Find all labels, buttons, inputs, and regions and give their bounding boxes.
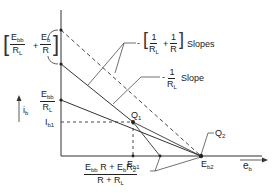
- slopes-fraction-2: 1 R: [170, 33, 177, 54]
- bottom-fraction: Ebb R + EbR2 R + RL: [84, 163, 137, 186]
- ib1-label: Ib1: [45, 118, 54, 128]
- y-axis-label: ib: [23, 106, 28, 116]
- point-top-intercept: [59, 28, 62, 31]
- load-line-rl: [61, 100, 201, 156]
- brace-connector: [48, 56, 58, 64]
- y-arrow-head-icon: [17, 95, 22, 101]
- q2-leader: [201, 133, 214, 155]
- q1-label: Q1: [131, 111, 141, 121]
- point-bottom: [159, 155, 162, 158]
- q1-to-eb2: [133, 122, 201, 156]
- slope-text: Slope: [181, 74, 204, 83]
- bottom-fraction-leader: [150, 157, 160, 171]
- point-ebb-rl: [59, 98, 62, 101]
- ebb-over-rl-fraction: Ebb RL: [10, 33, 25, 56]
- x-arrow-head-icon: [262, 158, 268, 163]
- solid-line-to-q1: [61, 64, 133, 122]
- slopes-bracket-left: [: [143, 30, 148, 48]
- plus-sign: +: [33, 42, 38, 51]
- q2-label: Q2: [215, 129, 225, 139]
- bracket-left: [: [3, 33, 9, 55]
- slope-leader: [113, 77, 160, 104]
- bracket-right: ]: [53, 33, 59, 55]
- point-eb1: [132, 155, 135, 158]
- point-mid-intercept: [59, 62, 62, 65]
- slopes-fraction-1: 1 RL: [149, 33, 159, 55]
- slopes-leader: [88, 43, 136, 85]
- slope-fraction: 1 RL: [167, 68, 177, 90]
- slopes-minus: -: [137, 39, 140, 48]
- bottom-fraction-leader-2: [155, 157, 201, 171]
- slopes-text: Slopes: [187, 40, 215, 49]
- eb2-label: Eb2: [201, 160, 214, 170]
- eb-over-r-fraction: Eb R: [40, 33, 51, 55]
- slopes-plus: +: [163, 40, 168, 49]
- slope-minus: -: [162, 73, 165, 82]
- ebb-rl-intercept-label: Ebb RL: [40, 90, 55, 113]
- q1-to-bottom-point: [133, 122, 160, 156]
- slopes-leader-2: [115, 43, 124, 73]
- x-axis-label: eb: [243, 161, 252, 172]
- slopes-bracket-right: ]: [179, 30, 184, 48]
